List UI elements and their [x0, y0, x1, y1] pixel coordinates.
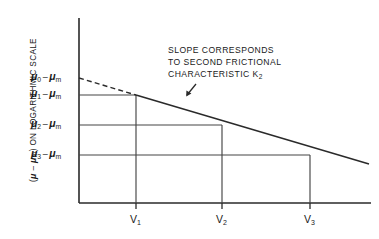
x-tick-v3-symbol: V: [304, 213, 311, 225]
x-tick-label-v2: V2: [216, 213, 227, 226]
y-tick-mu2-dash: –: [41, 119, 49, 129]
y-tick-mu0-m-subscript: m: [55, 76, 61, 83]
annotation-k-subscript: 2: [259, 73, 263, 80]
x-tick-label-v1: V1: [130, 213, 141, 226]
annotation-arrow-icon: [186, 84, 196, 96]
y-tick-label-mu2: μ2–μm: [31, 117, 61, 130]
y-tick-mu1-dash: –: [41, 89, 49, 99]
x-tick-v1-symbol: V: [130, 213, 137, 225]
y-tick-mu1-m-subscript: m: [55, 93, 61, 100]
slope-line-solid-segment: [136, 95, 369, 164]
figure-container: (μ – μm) ON LOGARITHMIC SCALE μ0–μm μ1–μ…: [0, 0, 379, 239]
y-axis-label-dash: –: [29, 163, 38, 173]
y-tick-label-mu0: μ0–μm: [31, 70, 61, 83]
y-tick-mu0-dash: –: [41, 72, 49, 82]
x-tick-v2-symbol: V: [216, 213, 223, 225]
slope-line-dashed-segment: [79, 78, 136, 95]
annotation-line-1: SLOPE CORRESPONDS: [168, 44, 281, 56]
x-tick-label-v3: V3: [304, 213, 315, 226]
x-tick-v3-subscript: 3: [311, 219, 315, 226]
y-axis-label: (μ – μm) ON LOGARITHMIC SCALE: [28, 15, 38, 205]
y-tick-label-mu3: μ3–μm: [31, 147, 61, 160]
y-tick-mu3-dash: –: [41, 149, 49, 159]
x-tick-v2-subscript: 2: [223, 219, 227, 226]
slope-annotation: SLOPE CORRESPONDS TO SECOND FRICTIONAL C…: [168, 44, 281, 84]
y-tick-mu3-m-subscript: m: [55, 153, 61, 160]
x-tick-v1-subscript: 1: [137, 219, 141, 226]
y-tick-label-mu1: μ1–μm: [31, 87, 61, 100]
annotation-line-3: CHARACTERISTIC K2: [168, 68, 281, 83]
y-tick-mu2-m-subscript: m: [55, 123, 61, 130]
annotation-line-3-text: CHARACTERISTIC K: [168, 69, 259, 79]
y-axis-label-paren-open: (: [29, 179, 38, 182]
y-axis-label-mu: μ: [28, 173, 38, 179]
annotation-line-2: TO SECOND FRICTIONAL: [168, 56, 281, 68]
